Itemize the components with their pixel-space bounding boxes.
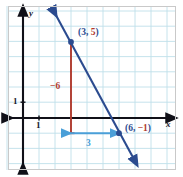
x-axis-tick-label: 1 [36, 121, 41, 130]
coordinate-graph-figure: (3, 5) (6, −1) −6 3 y x 1 1 [0, 0, 183, 177]
point-label-6-neg1-y: −1 [138, 123, 148, 133]
rise-label: −6 [50, 82, 60, 92]
point-label-6-neg1-close: ) [148, 123, 151, 133]
x-axis-label: x [166, 120, 171, 129]
point-label-3-5-close: ) [95, 27, 98, 37]
run-label: 3 [86, 139, 91, 149]
y-axis-label: y [29, 9, 33, 18]
point-label-3-5: (3, 5) [78, 28, 99, 38]
point-6-neg1 [116, 130, 122, 136]
point-3-5 [68, 39, 74, 45]
point-label-6-neg1: (6, −1) [125, 124, 151, 134]
y-axis-tick-label: 1 [13, 97, 18, 106]
